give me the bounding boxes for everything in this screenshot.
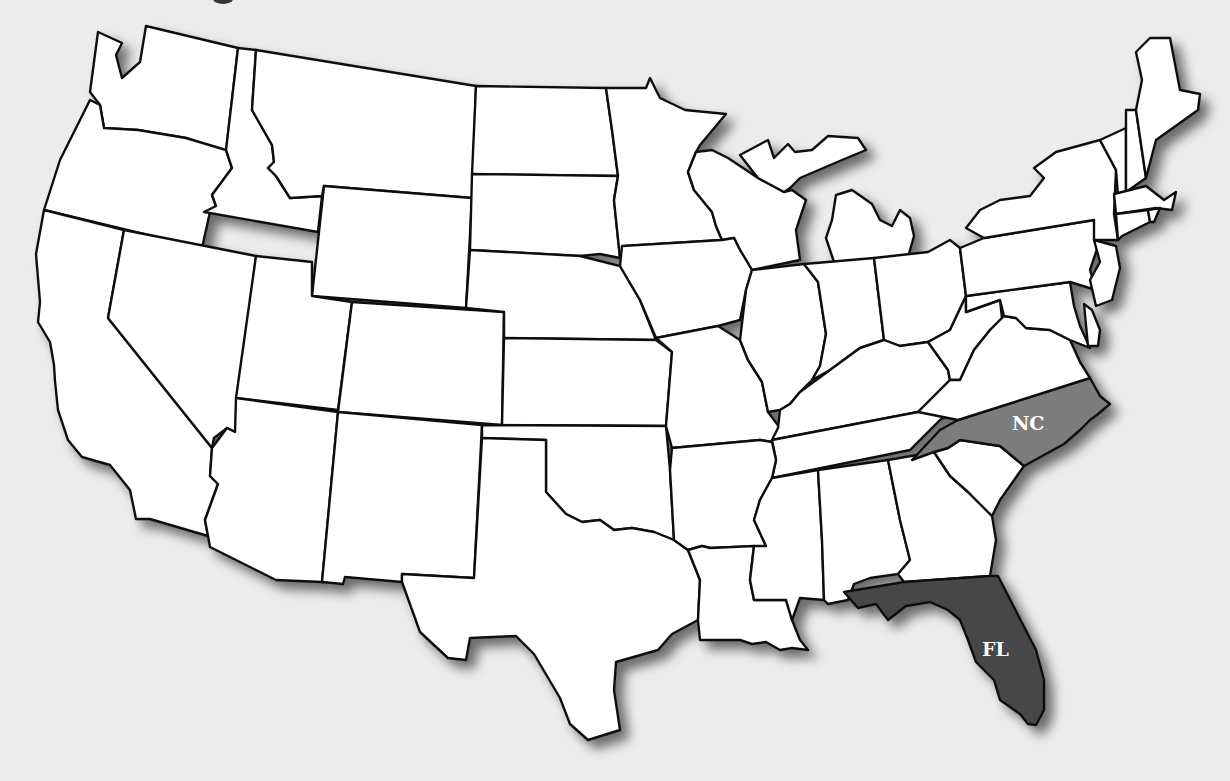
state-new-mexico[interactable] (322, 412, 482, 584)
state-colorado[interactable] (338, 302, 504, 425)
state-florida-highlighted[interactable] (844, 576, 1044, 725)
state-south-dakota[interactable] (470, 174, 620, 258)
label-nc: NC (1012, 412, 1045, 434)
us-map-svg: NC FL (0, 0, 1230, 781)
state-north-dakota[interactable] (472, 86, 618, 176)
state-delaware[interactable] (1084, 304, 1100, 346)
state-kansas[interactable] (502, 338, 672, 426)
state-rhode-island[interactable] (1148, 208, 1160, 222)
state-new-york[interactable] (966, 140, 1118, 240)
state-connecticut[interactable] (1116, 210, 1150, 240)
state-montana[interactable] (252, 50, 476, 198)
us-map: NC FL (0, 0, 1230, 781)
label-fl: FL (982, 638, 1009, 660)
state-maine[interactable] (1136, 38, 1200, 178)
state-wyoming[interactable] (312, 186, 472, 308)
